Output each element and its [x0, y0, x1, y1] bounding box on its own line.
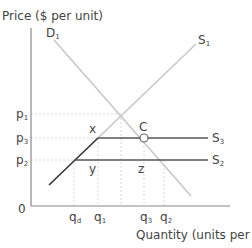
label-s3: S3 [212, 131, 224, 146]
label-qd: qd [69, 210, 81, 225]
label-z: z [138, 162, 144, 176]
x-axis-label: Quantity (units per year) [136, 228, 252, 242]
label-y: y [89, 162, 96, 176]
label-p2: p2 [16, 153, 28, 168]
y-axis-label: Price ($ per unit) [2, 9, 103, 23]
label-q1: q1 [94, 210, 106, 225]
label-p1: p1 [16, 107, 28, 122]
label-c: C [139, 120, 147, 134]
label-p3: p3 [16, 131, 28, 146]
label-x: x [89, 122, 96, 136]
demand-curve-d1 [54, 40, 191, 196]
label-d1: D1 [46, 26, 60, 41]
supply-demand-diagram: Price ($ per unit) Quantity (units per y… [0, 0, 252, 248]
label-s1: S1 [198, 33, 210, 48]
origin-label: 0 [18, 202, 26, 216]
label-q3: q3 [140, 210, 152, 225]
label-s2: S2 [212, 153, 224, 168]
point-c-marker [140, 134, 148, 142]
label-q2: q2 [160, 210, 172, 225]
